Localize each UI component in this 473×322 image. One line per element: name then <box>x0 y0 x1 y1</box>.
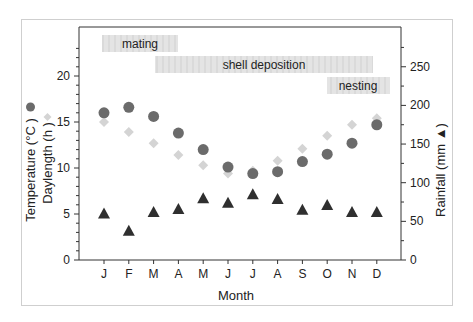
rainfall-point <box>148 206 160 217</box>
rainfall-point <box>371 206 383 217</box>
activity-bar-label: mating <box>122 37 158 51</box>
rainfall-point <box>346 206 358 217</box>
daylength-point <box>273 156 283 166</box>
rainfall-point <box>272 193 284 204</box>
rainfall-point <box>321 199 333 210</box>
x-tick-label: J <box>250 267 256 281</box>
rainfall-point <box>123 225 135 236</box>
right-tick-label: 0 <box>410 253 417 267</box>
daylength-point <box>173 150 183 160</box>
x-tick-label: A <box>274 267 282 281</box>
temperature-legend-icon <box>26 103 35 112</box>
daylength-point <box>124 127 134 137</box>
right-axis-title: Rainfall (mm ▲) <box>433 123 448 217</box>
left-tick-label: 20 <box>57 69 71 83</box>
temperature-point <box>173 128 184 139</box>
daylength-point <box>198 160 208 170</box>
temperature-point <box>272 166 283 177</box>
chart: matingshell depositionnesting 0510152005… <box>0 0 473 322</box>
left-tick-label: 5 <box>63 207 70 221</box>
x-tick-label: D <box>372 267 381 281</box>
rainfall-point <box>197 192 209 203</box>
temperature-point <box>371 119 382 130</box>
temperature-point <box>123 102 134 113</box>
daylength-point <box>99 117 109 127</box>
x-tick-label: J <box>101 267 107 281</box>
temperature-point <box>297 156 308 167</box>
rainfall-point <box>296 204 308 215</box>
left-axis-title-daylength: Daylength (h ) <box>40 122 55 204</box>
rainfall-point <box>172 203 184 214</box>
temperature-point <box>99 107 110 118</box>
rainfall-point <box>98 208 110 219</box>
right-tick-label: 150 <box>410 137 430 151</box>
x-tick-label: M <box>149 267 159 281</box>
x-axis-title: Month <box>218 288 254 303</box>
daylength-point <box>322 131 332 141</box>
left-tick-label: 15 <box>57 115 71 129</box>
left-axis-title-temperature: Temperature (°C ) <box>23 118 38 221</box>
activity-bars: matingshell depositionnesting <box>102 35 390 94</box>
right-tick-label: 100 <box>410 176 430 190</box>
daylength-point <box>297 144 307 154</box>
daylength-legend-icon <box>44 113 52 121</box>
rainfall-point <box>222 197 234 208</box>
temperature-point <box>223 162 234 173</box>
x-tick-label: M <box>198 267 208 281</box>
daylength-point <box>149 138 159 148</box>
activity-bar-label: nesting <box>339 79 378 93</box>
axis-labels: MonthTemperature (°C )Daylength (h )Rain… <box>23 103 448 304</box>
temperature-point <box>198 144 209 155</box>
activity-bar-label: shell deposition <box>223 58 306 72</box>
x-tick-label: J <box>225 267 231 281</box>
left-tick-label: 0 <box>63 253 70 267</box>
daylength-point <box>347 120 357 130</box>
temperature-point <box>322 149 333 160</box>
data-points <box>98 102 383 236</box>
rainfall-point <box>247 188 259 199</box>
temperature-point <box>347 138 358 149</box>
right-tick-label: 200 <box>410 98 430 112</box>
x-tick-label: O <box>323 267 332 281</box>
x-tick-label: A <box>174 267 182 281</box>
temperature-point <box>148 111 159 122</box>
right-tick-label: 50 <box>410 214 424 228</box>
x-tick-label: N <box>348 267 357 281</box>
temperature-point <box>247 168 258 179</box>
x-tick-label: S <box>298 267 306 281</box>
right-tick-label: 250 <box>410 60 430 74</box>
x-tick-label: F <box>125 267 132 281</box>
left-tick-label: 10 <box>57 161 71 175</box>
